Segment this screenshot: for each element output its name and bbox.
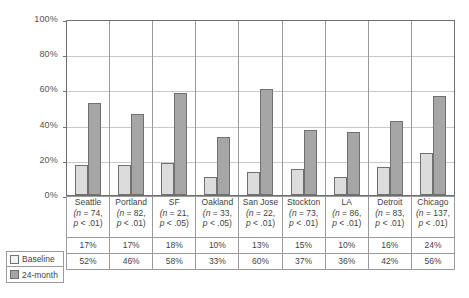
- value-cell: 58%: [153, 254, 196, 270]
- bar-baseline: [118, 165, 131, 195]
- bar-pair: [67, 21, 109, 195]
- legend-swatch-icon: [10, 255, 19, 264]
- y-axis-label: 0%: [0, 190, 58, 200]
- sample-size: (n = 21,: [153, 208, 195, 219]
- sample-size: (n = 74,: [67, 208, 109, 219]
- bar-pair: [412, 21, 454, 195]
- legend-swatch-icon: [10, 270, 19, 279]
- data-table: Seattle(n = 74,p < .01)Portland(n = 82,p…: [66, 196, 455, 270]
- p-value: p < .05): [153, 218, 195, 229]
- legend-item: Baseline: [7, 252, 63, 267]
- category-header-cell: Detroit(n = 83,p < .01): [368, 197, 411, 238]
- p-value: p < .01): [67, 218, 109, 229]
- bar-month24: [304, 130, 317, 195]
- bar-month24: [390, 121, 403, 195]
- category-name: Seattle: [67, 197, 109, 208]
- bar-baseline: [291, 169, 304, 195]
- category-name: San Jose: [239, 197, 281, 208]
- bar-month24: [433, 96, 446, 195]
- bar-group: [369, 21, 412, 195]
- bar-month24: [174, 93, 187, 195]
- bar-baseline: [75, 165, 88, 195]
- legend-label: Baseline: [22, 254, 55, 264]
- value-cell: 17%: [110, 238, 153, 254]
- bar-pair: [326, 21, 368, 195]
- sample-size: (n = 73,: [283, 208, 325, 219]
- bar-month24: [347, 132, 360, 195]
- bar-group: [283, 21, 326, 195]
- p-value: p < .01): [369, 218, 411, 229]
- bar-baseline: [161, 163, 174, 195]
- bar-month24: [131, 114, 144, 195]
- bar-group: [326, 21, 369, 195]
- bar-group: [153, 21, 196, 195]
- bar-month24: [260, 89, 273, 195]
- sample-size: (n = 86,: [326, 208, 368, 219]
- y-axis-label: 20%: [0, 155, 58, 165]
- category-header-cell: Portland(n = 82,p < .01): [110, 197, 153, 238]
- value-cell: 18%: [153, 238, 196, 254]
- category-header-cell: SF(n = 21,p < .05): [153, 197, 196, 238]
- bar-pair: [196, 21, 238, 195]
- value-cell: 37%: [282, 254, 325, 270]
- y-axis-label: 100%: [0, 14, 58, 24]
- y-axis-label: 40%: [0, 120, 58, 130]
- legend-item: 24-month: [7, 267, 63, 282]
- bar-baseline: [377, 167, 390, 195]
- y-axis-label: 80%: [0, 49, 58, 59]
- bar-baseline: [204, 177, 217, 195]
- category-name: LA: [326, 197, 368, 208]
- sample-size: (n = 83,: [369, 208, 411, 219]
- bar-group: [239, 21, 282, 195]
- bar-columns: [67, 21, 454, 195]
- value-cell: 36%: [325, 254, 368, 270]
- sample-size: (n = 22,: [239, 208, 281, 219]
- value-cell: 33%: [196, 254, 239, 270]
- value-cell: 17%: [67, 238, 110, 254]
- value-cell: 15%: [282, 238, 325, 254]
- value-cell: 10%: [196, 238, 239, 254]
- bar-pair: [153, 21, 195, 195]
- data-table-wrapper: Seattle(n = 74,p < .01)Portland(n = 82,p…: [66, 196, 455, 270]
- bar-month24: [217, 137, 230, 195]
- category-header-cell: Oakland(n = 33,p < .05): [196, 197, 239, 238]
- value-cell: 10%: [325, 238, 368, 254]
- category-header-cell: Stockton(n = 73,p < .01): [282, 197, 325, 238]
- bar-group: [67, 21, 110, 195]
- category-header-cell: Seattle(n = 74,p < .01): [67, 197, 110, 238]
- category-header-cell: LA(n = 86,p < .01): [325, 197, 368, 238]
- p-value: p < .01): [283, 218, 325, 229]
- table-row-baseline: 17%17%18%10%13%15%10%16%24%: [67, 238, 455, 254]
- category-header-cell: Chicago(n = 137,p < .01): [411, 197, 454, 238]
- bar-group: [196, 21, 239, 195]
- p-value: p < .01): [412, 218, 454, 229]
- bar-group: [110, 21, 153, 195]
- value-cell: 60%: [239, 254, 282, 270]
- value-cell: 13%: [239, 238, 282, 254]
- p-value: p < .05): [196, 218, 238, 229]
- plot-area: [66, 20, 455, 196]
- value-cell: 16%: [368, 238, 411, 254]
- category-header-cell: San Jose(n = 22,p < .01): [239, 197, 282, 238]
- table-row-header: Seattle(n = 74,p < .01)Portland(n = 82,p…: [67, 197, 455, 238]
- y-axis-label: 60%: [0, 84, 58, 94]
- bar-pair: [283, 21, 325, 195]
- category-name: Chicago: [412, 197, 454, 208]
- value-cell: 52%: [67, 254, 110, 270]
- p-value: p < .01): [326, 218, 368, 229]
- category-name: Detroit: [369, 197, 411, 208]
- legend-label: 24-month: [22, 270, 58, 280]
- category-name: SF: [153, 197, 195, 208]
- value-cell: 42%: [368, 254, 411, 270]
- category-name: Oakland: [196, 197, 238, 208]
- bar-group: [412, 21, 454, 195]
- value-cell: 56%: [411, 254, 454, 270]
- category-name: Stockton: [283, 197, 325, 208]
- bar-pair: [369, 21, 411, 195]
- sample-size: (n = 137,: [412, 208, 454, 219]
- bar-baseline: [247, 172, 260, 195]
- bar-pair: [239, 21, 281, 195]
- bar-month24: [88, 103, 101, 195]
- chart-legend: Baseline24-month: [6, 251, 64, 283]
- table-row-24month: 52%46%58%33%60%37%36%42%56%: [67, 254, 455, 270]
